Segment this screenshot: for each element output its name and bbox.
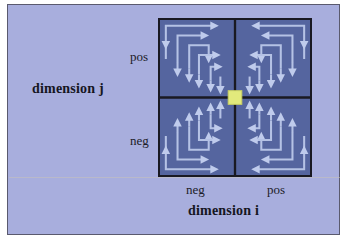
- vector-field-svg: [160, 20, 310, 175]
- figure-panel: dimension j dimension i pos neg neg pos: [7, 4, 340, 235]
- x-axis-tick-pos: pos: [267, 182, 285, 198]
- origin-marker: [228, 91, 242, 105]
- y-axis-title: dimension j: [32, 81, 104, 97]
- y-axis-tick-neg: neg: [130, 133, 149, 149]
- y-axis-tick-pos: pos: [130, 49, 148, 65]
- x-axis-title: dimension i: [188, 203, 259, 219]
- x-axis-tick-neg: neg: [186, 182, 205, 198]
- horizontal-guide-line: [9, 177, 340, 178]
- quadrant-plot-area: [158, 18, 312, 177]
